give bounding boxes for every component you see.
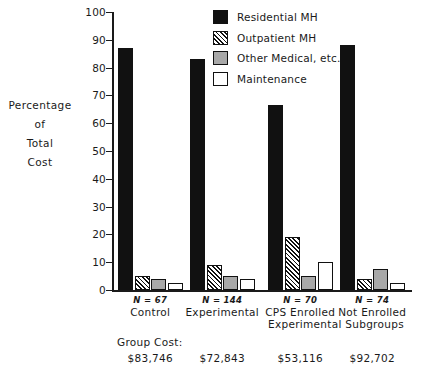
legend-label: Maintenance: [237, 73, 307, 85]
legend-item: Residential MH: [213, 8, 341, 26]
legend-label: Outpatient MH: [237, 32, 316, 44]
bar: [340, 45, 355, 290]
group-cost-caption: Group Cost:: [117, 336, 183, 348]
bar-group: [340, 12, 405, 290]
bar: [151, 279, 166, 290]
y-axis-tick-label: 100: [78, 7, 106, 17]
y-axis-tick-label: 0: [78, 285, 106, 295]
bar: [268, 105, 283, 290]
bar: [240, 279, 255, 290]
y-axis-tick-label: 70: [78, 90, 106, 100]
group-cost-value: $92,702: [312, 352, 424, 364]
group-label: Not Enrolled: [312, 306, 424, 318]
y-axis-title-line-1: Percentage: [2, 96, 78, 115]
legend-item: Other Medical, etc.: [213, 49, 341, 67]
y-axis-tick-label: 40: [78, 174, 106, 184]
bar: [357, 279, 372, 290]
y-axis-tick: [106, 290, 112, 291]
y-axis-tick-label: 20: [78, 229, 106, 239]
y-axis-tick: [106, 123, 112, 124]
bar: [223, 276, 238, 290]
y-axis-tick: [106, 40, 112, 41]
y-axis-title-line-4: Cost: [2, 153, 78, 172]
bar: [318, 262, 333, 290]
x-axis-title: Experimental Subgroups: [268, 318, 404, 330]
y-axis-tick: [106, 151, 112, 152]
y-axis-tick: [106, 179, 112, 180]
bar: [285, 237, 300, 290]
legend-label: Other Medical, etc.: [237, 52, 341, 64]
bar: [373, 269, 388, 290]
bar: [207, 265, 222, 290]
legend-swatch-icon: [213, 72, 228, 86]
y-axis-tick-label: 30: [78, 202, 106, 212]
legend-label: Residential MH: [237, 11, 318, 23]
legend-item: Maintenance: [213, 70, 341, 88]
y-axis-tick: [106, 262, 112, 263]
legend: Residential MHOutpatient MHOther Medical…: [213, 8, 341, 90]
bar: [118, 48, 133, 290]
legend-swatch-icon: [213, 10, 228, 24]
y-axis-title-line-3: Total: [2, 134, 78, 153]
bar-group: [118, 12, 183, 290]
y-axis-tick-label: 80: [78, 63, 106, 73]
y-axis-tick-label: 60: [78, 118, 106, 128]
y-axis-title-line-2: of: [2, 115, 78, 134]
legend-swatch-icon: [213, 51, 228, 65]
legend-item: Outpatient MH: [213, 29, 341, 47]
y-axis-tick: [106, 207, 112, 208]
bar: [301, 276, 316, 290]
bar-chart: Percentage of Total Cost 100908070605040…: [0, 0, 424, 371]
bar: [390, 283, 405, 290]
bar: [190, 59, 205, 290]
x-axis-line: [112, 290, 412, 292]
bar: [168, 283, 183, 290]
y-axis-tick: [106, 95, 112, 96]
y-axis-tick-label: 10: [78, 257, 106, 267]
bar: [135, 276, 150, 290]
y-axis-tick-label: 50: [78, 146, 106, 156]
group-sample-size: N = 74: [322, 295, 422, 305]
legend-swatch-icon: [213, 31, 228, 45]
y-axis-tick: [106, 234, 112, 235]
y-axis-tick: [106, 12, 112, 13]
y-axis-tick-label: 90: [78, 35, 106, 45]
y-axis-tick: [106, 68, 112, 69]
y-axis-title: Percentage of Total Cost: [2, 96, 78, 172]
